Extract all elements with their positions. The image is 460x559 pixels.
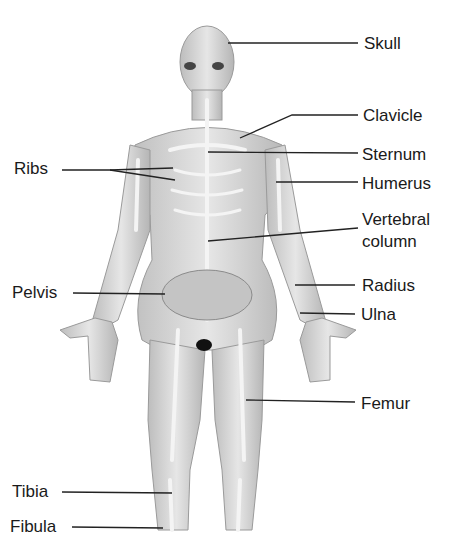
label-column: column [362,233,417,251]
label-ulna: Ulna [361,306,396,324]
pelvis-shape [162,270,252,320]
label-fibula: Fibula [10,518,56,536]
label-skull: Skull [364,35,401,53]
label-vertebral: Vertebral [362,211,430,229]
label-femur: Femur [361,395,410,413]
label-humerus: Humerus [362,175,431,193]
label-sternum: Sternum [362,146,426,164]
label-radius: Radius [362,277,415,295]
label-pelvis: Pelvis [12,284,57,302]
label-tibia: Tibia [12,483,48,501]
label-ribs: Ribs [14,160,48,178]
label-clavicle: Clavicle [363,107,423,125]
